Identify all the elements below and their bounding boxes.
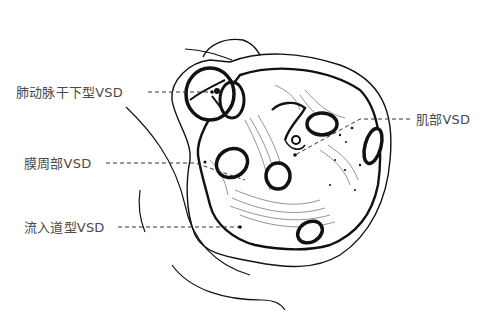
label-muscular-vsd: 肌部VSD bbox=[416, 112, 470, 128]
label-perimembranous-vsd: 膜周部VSD bbox=[24, 156, 91, 172]
perimembranous-defect bbox=[211, 143, 253, 183]
muscular-defect-upper bbox=[307, 113, 337, 135]
muscular-defect-edge bbox=[361, 127, 386, 166]
inlet-area-defect bbox=[294, 217, 327, 247]
central-defect bbox=[266, 163, 290, 189]
label-subarterial-vsd: 肺动脉干下型VSD bbox=[16, 85, 123, 101]
pulmonary-valve bbox=[186, 68, 244, 120]
label-inlet-vsd: 流入道型VSD bbox=[24, 220, 105, 236]
